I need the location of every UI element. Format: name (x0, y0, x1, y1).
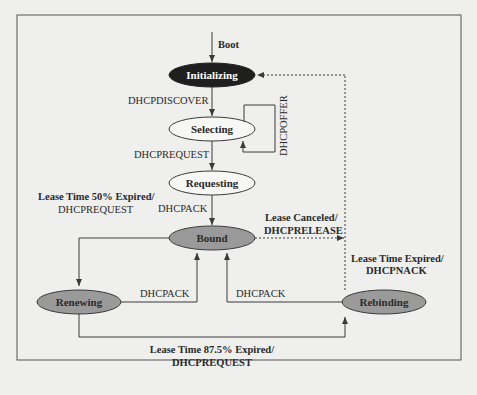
state-requesting: Requesting (169, 171, 255, 195)
expired-label-2: DHCPNACK (366, 265, 427, 276)
svg-text:Renewing: Renewing (56, 296, 103, 308)
renew-arrow (79, 238, 169, 286)
svg-text:Initializing: Initializing (186, 69, 238, 81)
diagram-canvas: Boot Initializing DHCPDISCOVER Selecting… (0, 0, 477, 395)
svg-text:Selecting: Selecting (191, 123, 234, 135)
state-bound: Bound (169, 226, 255, 250)
state-initializing: Initializing (169, 63, 255, 87)
state-selecting: Selecting (169, 117, 255, 141)
release-label-1: Lease Canceled/ (265, 212, 339, 223)
offer-label: DHCPOFFER (278, 95, 289, 156)
svg-text:Rebinding: Rebinding (360, 296, 409, 308)
rebind-label-2: DHCPREQUEST (172, 357, 252, 368)
rebind-ack-label: DHCPACK (236, 288, 286, 299)
state-rebinding: Rebinding (342, 290, 426, 314)
renew-ack-label: DHCPACK (140, 288, 190, 299)
renew-label-2: DHCPREQUEST (58, 204, 134, 215)
rebind-label-1: Lease Time 87.5% Expired/ (150, 344, 275, 355)
release-label-2: DHCPRELEASE (264, 225, 343, 236)
state-renewing: Renewing (37, 290, 121, 314)
renew-label-1: Lease Time 50% Expired/ (38, 191, 155, 202)
svg-text:Requesting: Requesting (186, 177, 239, 189)
rebind-arrow (79, 314, 345, 337)
request-label: DHCPREQUEST (134, 149, 210, 160)
dhcp-state-diagram: Boot Initializing DHCPDISCOVER Selecting… (0, 0, 477, 395)
boot-label: Boot (218, 39, 240, 50)
discover-label: DHCPDISCOVER (128, 95, 209, 106)
svg-text:Bound: Bound (196, 232, 227, 244)
ack-label: DHCPACK (158, 203, 208, 214)
expired-label-1: Lease Time Expired/ (351, 253, 445, 264)
